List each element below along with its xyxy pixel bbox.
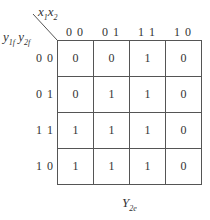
column-header-00: 0 0: [57, 25, 93, 40]
column-variables-label: x1x2: [38, 4, 58, 22]
column-header-10: 1 0: [165, 25, 201, 40]
kmap-cell: 1: [94, 113, 130, 149]
row-header-11: 1 1: [22, 123, 54, 138]
row-header-01: 0 1: [22, 87, 54, 102]
kmap-cell: 1: [130, 41, 166, 77]
kmap-cell: 1: [58, 113, 94, 149]
kmap-cell: 0: [58, 77, 94, 113]
column-header-11: 1 1: [129, 25, 165, 40]
kmap-row: 0 0 1 0: [58, 41, 202, 77]
kmap-cell: 0: [166, 41, 202, 77]
kmap-row: 1 1 1 0: [58, 149, 202, 185]
kmap-row: 1 1 1 0: [58, 113, 202, 149]
row-variables-label: y1f y2f: [3, 29, 30, 47]
karnaugh-map-grid: 0 0 1 0 0 1 1 0 1 1 1 0 1 1 1 0: [57, 40, 202, 185]
kmap-cell: 0: [94, 41, 130, 77]
kmap-cell: 1: [130, 113, 166, 149]
row-header-00: 0 0: [22, 51, 54, 66]
column-header-01: 0 1: [93, 25, 129, 40]
kmap-cell: 0: [166, 113, 202, 149]
kmap-cell: 1: [58, 149, 94, 185]
kmap-row: 0 1 1 0: [58, 77, 202, 113]
kmap-cell: 1: [130, 77, 166, 113]
kmap-cell: 1: [94, 77, 130, 113]
kmap-cell: 0: [58, 41, 94, 77]
output-label: Y2e: [122, 195, 137, 213]
kmap-cell: 0: [166, 77, 202, 113]
kmap-cell: 0: [166, 149, 202, 185]
row-header-10: 1 0: [22, 159, 54, 174]
kmap-cell: 1: [130, 149, 166, 185]
kmap-cell: 1: [94, 149, 130, 185]
